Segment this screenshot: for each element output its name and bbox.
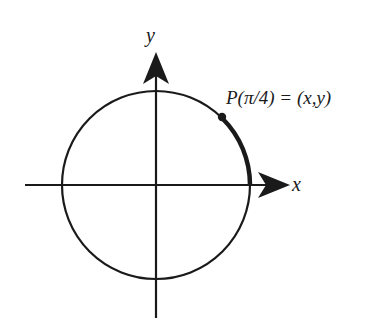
- point-p-marker: [218, 113, 226, 121]
- arc-0-to-pi-over-4: [223, 119, 251, 186]
- unit-circle-diagram: y x P(π/4) = (x,y): [0, 0, 375, 334]
- y-axis-label: y: [144, 24, 155, 47]
- x-axis-label: x: [291, 173, 301, 195]
- point-p-label: P(π/4) = (x,y): [225, 87, 331, 109]
- point-p-label-text: P(π/4) = (x,y): [225, 87, 331, 109]
